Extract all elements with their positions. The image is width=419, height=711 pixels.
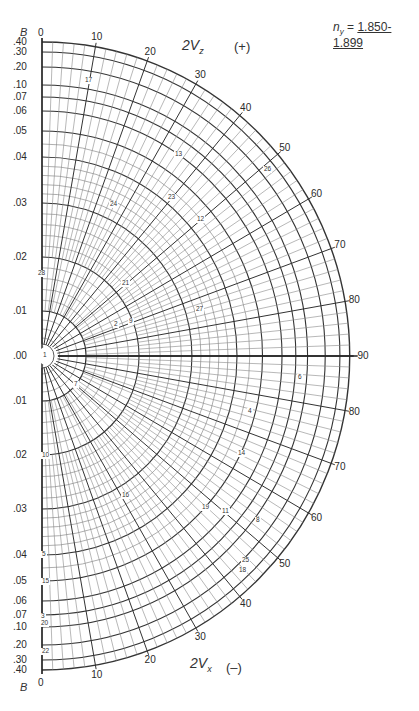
mineral-label-16: 16 — [121, 492, 130, 499]
mineral-label-17: 17 — [84, 77, 93, 84]
mineral-label-8: 8 — [255, 517, 261, 524]
b-tick-upper-2: .02 — [13, 252, 27, 262]
lower-angle-tick-0: 0 — [38, 678, 44, 688]
b-tick-upper-8: .10 — [13, 80, 27, 90]
lower-angle-tick-50: 50 — [279, 559, 290, 569]
lower-angle-tick-60: 60 — [311, 513, 322, 523]
mineral-label-28: 28 — [37, 270, 46, 277]
b-tick-upper-1: .01 — [13, 306, 27, 316]
lower-angle-tick-70: 70 — [334, 462, 345, 472]
upper-angle-tick-70: 70 — [334, 240, 345, 250]
b-tick-lower-11: .40 — [13, 665, 27, 675]
mineral-label-5: 5 — [41, 551, 47, 558]
mineral-label-23: 23 — [167, 194, 176, 201]
upper-angle-tick-60: 60 — [311, 189, 322, 199]
b-tick-lower-3: .03 — [13, 504, 27, 514]
mineral-label-22: 22 — [41, 648, 50, 655]
mineral-label-13: 13 — [174, 151, 183, 158]
polar-nomogram — [0, 0, 419, 711]
b-tick-lower-9: .20 — [13, 640, 27, 650]
mineral-label-19: 19 — [201, 504, 210, 511]
mineral-label-10: 10 — [41, 452, 50, 459]
upper-angle-tick-0: 0 — [38, 28, 44, 38]
lower-axis-sign: (–) — [226, 660, 242, 675]
mineral-label-18: 18 — [238, 567, 247, 574]
b-tick-upper-0: .00 — [13, 351, 27, 361]
b-axis-label-top: B — [20, 26, 27, 38]
b-tick-lower-6: .06 — [13, 596, 27, 606]
b-tick-upper-10: .30 — [13, 47, 27, 57]
upper-angle-tick-50: 50 — [279, 143, 290, 153]
b-axis-label-bottom: B — [20, 681, 27, 693]
lower-angle-tick-80: 80 — [349, 407, 360, 417]
b-tick-upper-3: .03 — [13, 198, 27, 208]
ny-range-label: ny = 1.850-1.899 — [333, 20, 419, 50]
mineral-label-6: 6 — [297, 374, 303, 381]
upper-angle-tick-80: 80 — [349, 295, 360, 305]
mineral-label-20: 20 — [40, 620, 49, 627]
upper-angle-tick-20: 20 — [145, 47, 156, 57]
mineral-label-26: 26 — [263, 166, 272, 173]
mineral-label-21: 21 — [121, 280, 130, 287]
b-tick-upper-5: .05 — [13, 126, 27, 136]
mineral-label-27: 27 — [195, 306, 204, 313]
upper-angle-tick-30: 30 — [195, 70, 206, 80]
mineral-label-2: 2 — [113, 321, 119, 328]
upper-axis-sign: (+) — [234, 39, 250, 54]
mineral-label-25: 25 — [241, 557, 250, 564]
lower-angle-tick-10: 10 — [91, 670, 102, 680]
mineral-label-9: 9 — [128, 318, 134, 325]
b-tick-lower-1: .01 — [13, 396, 27, 406]
mineral-label-24: 24 — [109, 201, 118, 208]
mineral-label-11: 11 — [221, 508, 230, 515]
upper-axis-title: 2Vz — [182, 37, 204, 56]
mineral-label-12: 12 — [196, 216, 205, 223]
b-tick-lower-4: .04 — [13, 550, 27, 560]
b-tick-lower-8: .10 — [13, 622, 27, 632]
b-tick-upper-6: .06 — [13, 106, 27, 116]
b-tick-upper-11: .40 — [13, 37, 27, 47]
lower-angle-tick-30: 30 — [195, 632, 206, 642]
mineral-label-7: 7 — [73, 381, 79, 388]
upper-angle-tick-40: 40 — [240, 103, 251, 113]
b-tick-upper-9: .20 — [13, 62, 27, 72]
b-tick-lower-7: .07 — [13, 610, 27, 620]
b-tick-upper-7: .07 — [13, 92, 27, 102]
b-tick-lower-5: .05 — [13, 576, 27, 586]
mineral-label-14: 14 — [237, 450, 246, 457]
lower-angle-tick-40: 40 — [240, 599, 251, 609]
mineral-label-1: 1 — [42, 352, 48, 359]
mineral-label-15: 15 — [41, 578, 50, 585]
b-tick-lower-2: .02 — [13, 450, 27, 460]
lower-axis-title: 2Vx — [190, 655, 212, 674]
upper-angle-tick-90: 90 — [358, 351, 369, 361]
lower-angle-tick-20: 20 — [145, 655, 156, 665]
upper-angle-tick-10: 10 — [91, 32, 102, 42]
mineral-label-4: 4 — [247, 408, 253, 415]
b-tick-upper-4: .04 — [13, 152, 27, 162]
